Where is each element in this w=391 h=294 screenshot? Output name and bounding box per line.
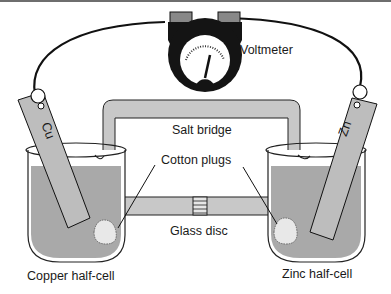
label-zinc-half-cell: Zinc half-cell: [282, 268, 352, 281]
label-cotton-plugs: Cotton plugs: [161, 154, 231, 167]
glass-disc: [193, 197, 207, 215]
label-copper-half-cell: Copper half-cell: [27, 270, 115, 283]
label-salt-bridge: Salt bridge: [172, 124, 232, 137]
wire-left: [34, 22, 165, 95]
galvanic-cell-diagram: [0, 0, 391, 294]
voltmeter-icon: [168, 12, 242, 92]
cotton-plug-right: [274, 218, 297, 244]
label-voltmeter: Voltmeter: [240, 44, 293, 57]
label-glass-disc: Glass disc: [170, 225, 228, 238]
